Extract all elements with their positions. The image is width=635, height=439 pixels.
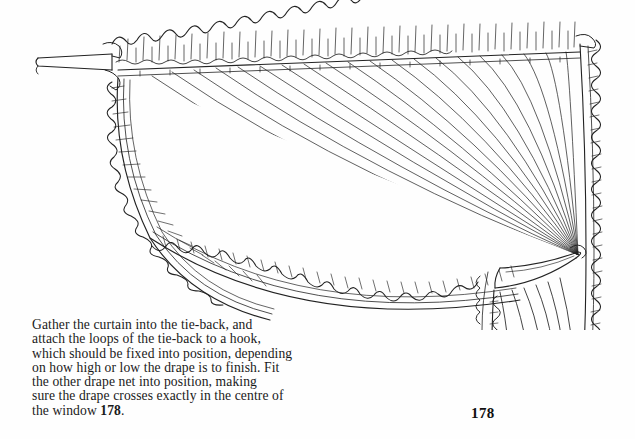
curtain-tie-back-illustration	[0, 0, 635, 330]
right-frilled-edge	[576, 34, 602, 330]
caption-line-last: the window 178.	[32, 404, 392, 418]
caption-page-reference: 178	[100, 403, 121, 418]
curtain-rod	[36, 42, 122, 90]
caption-line: on how high or low the drape is to finis…	[32, 361, 392, 375]
fold-lines	[135, 52, 578, 255]
lower-drape	[476, 272, 580, 330]
caption-line: Gather the curtain into the tie-back, an…	[32, 318, 392, 332]
book-page: Gather the curtain into the tie-back, an…	[0, 0, 635, 439]
caption-line: the other drape net into position, makin…	[32, 375, 392, 389]
page-number: 178	[471, 405, 495, 422]
left-frilled-edge	[107, 78, 274, 320]
caption-text: Gather the curtain into the tie-back, an…	[32, 318, 392, 418]
caption-last-prefix: the window	[32, 403, 100, 418]
curved-frilled-hem	[150, 227, 520, 309]
caption-line: sure the drape crosses exactly in the ce…	[32, 389, 392, 403]
caption-line: attach the loops of the tie-back to a ho…	[32, 332, 392, 346]
caption-line: which should be fixed into position, dep…	[32, 347, 392, 361]
heading-tape	[118, 52, 580, 76]
caption-last-suffix: .	[121, 403, 125, 418]
